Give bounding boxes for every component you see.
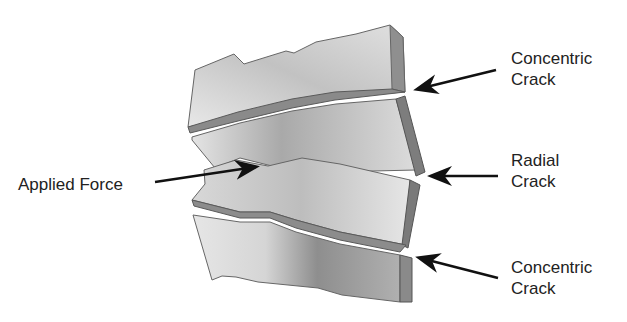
label-applied-force: Applied Force [18, 174, 123, 195]
applied-force-text: Applied Force [18, 175, 123, 194]
glass-fracture-diagram: Applied Force Concentric Crack Radial Cr… [0, 0, 627, 322]
label-concentric-crack-top: Concentric Crack [511, 48, 592, 90]
label-concentric-crack-bottom: Concentric Crack [511, 257, 592, 299]
arrow-concentric-bottom [420, 258, 498, 278]
radial-line1: Radial [511, 150, 559, 171]
concentric-top-line1: Concentric [511, 48, 592, 69]
radial-line2: Crack [511, 171, 559, 192]
arrow-concentric-top [418, 70, 496, 89]
concentric-top-line2: Crack [511, 69, 592, 90]
concentric-bottom-line1: Concentric [511, 257, 592, 278]
concentric-bottom-line2: Crack [511, 278, 592, 299]
label-radial-crack: Radial Crack [511, 150, 559, 192]
